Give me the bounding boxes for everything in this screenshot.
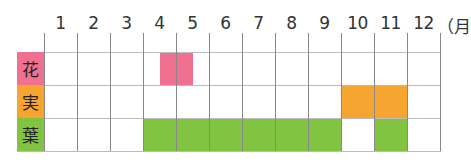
row-label-leaf: 葉	[17, 118, 44, 151]
grid-line	[110, 33, 111, 151]
grid-line	[17, 151, 441, 152]
month-label-8: 8	[275, 13, 308, 33]
month-label-10: 10	[341, 13, 374, 33]
row-label-fruit: 実	[17, 85, 44, 118]
grid-line	[308, 33, 309, 151]
row-label-flower: 花	[17, 52, 44, 85]
grid-line	[176, 33, 177, 151]
bar-leaf-2	[374, 118, 407, 151]
grid-line	[242, 33, 243, 151]
month-label-4: 4	[143, 13, 176, 33]
month-label-5: 5	[176, 13, 209, 33]
month-label-7: 7	[242, 13, 275, 33]
month-label-2: 2	[77, 13, 110, 33]
grid-line	[374, 33, 375, 151]
month-label-6: 6	[209, 13, 242, 33]
grid-line	[407, 33, 408, 151]
grid-line	[77, 33, 78, 151]
month-label-1: 1	[44, 13, 77, 33]
grid-line	[143, 33, 144, 151]
grid-line	[440, 33, 441, 151]
grid-line	[209, 33, 210, 151]
month-label-3: 3	[110, 13, 143, 33]
month-label-12: 12	[407, 13, 440, 33]
unit-label: （月	[437, 13, 471, 38]
month-label-9: 9	[308, 13, 341, 33]
month-label-11: 11	[374, 13, 407, 33]
grid-line	[44, 33, 45, 151]
grid-line	[275, 33, 276, 151]
grid-line	[341, 33, 342, 151]
